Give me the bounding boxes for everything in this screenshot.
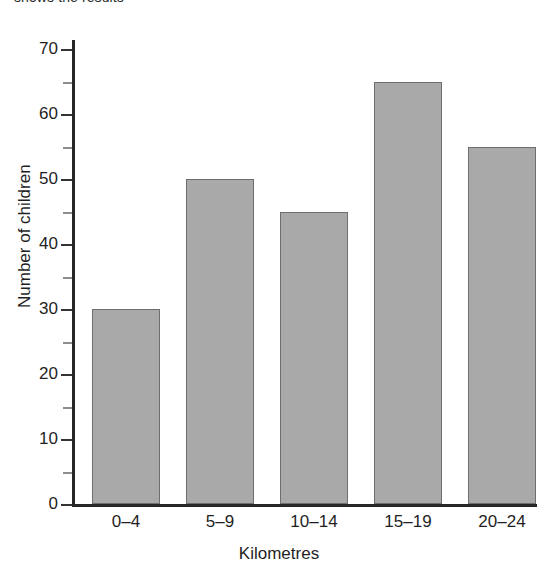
y-tick-label: 10	[14, 430, 58, 447]
x-tick-label: 15–19	[361, 512, 455, 532]
x-axis-line	[72, 504, 537, 507]
y-tick-label: 70	[14, 40, 58, 57]
y-tick-major	[61, 114, 72, 116]
y-tick-major	[61, 179, 72, 181]
bar	[280, 212, 348, 505]
y-axis-title: Number of children	[15, 168, 35, 308]
y-tick-label: 20	[14, 365, 58, 382]
y-tick-major	[61, 244, 72, 246]
y-tick-major	[61, 439, 72, 441]
bar	[92, 309, 160, 504]
x-tick-label: 0–4	[79, 512, 173, 532]
y-tick-minor	[63, 82, 72, 84]
y-tick-minor	[63, 407, 72, 409]
y-tick-major	[61, 309, 72, 311]
y-tick-minor	[63, 472, 72, 474]
x-tick-label: 5–9	[173, 512, 267, 532]
y-tick-label: 0	[14, 495, 58, 512]
y-tick-major	[61, 49, 72, 51]
bar-series	[72, 40, 537, 504]
x-tick-label: 10–14	[267, 512, 361, 532]
x-axis-title: Kilometres	[0, 544, 558, 564]
y-tick-major	[61, 504, 72, 506]
y-tick-minor	[63, 212, 72, 214]
bar	[186, 179, 254, 504]
x-tick-label: 20–24	[455, 512, 549, 532]
bar	[468, 147, 536, 505]
bar	[374, 82, 442, 505]
y-tick-major	[61, 374, 72, 376]
bar-chart: 010203040506070 Number of children 0–45–…	[0, 0, 558, 572]
y-tick-minor	[63, 342, 72, 344]
y-tick-minor	[63, 147, 72, 149]
y-tick-minor	[63, 277, 72, 279]
y-tick-label: 60	[14, 105, 58, 122]
